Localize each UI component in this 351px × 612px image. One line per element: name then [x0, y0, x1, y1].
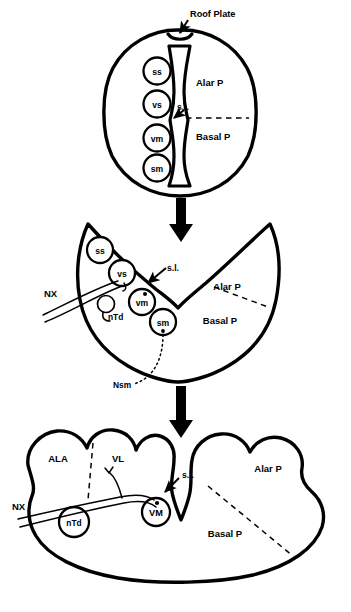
panel-3-ntd-label: nTd: [66, 518, 81, 528]
panel-2-sm-dot: [161, 329, 165, 333]
panel-1-label-ss: ss: [152, 67, 162, 77]
panel-3-vm-dot: [155, 501, 159, 505]
panel-3-ala-label: ALA: [48, 453, 68, 464]
panel-2-group: [43, 224, 279, 384]
panel-1-basal-plate-label: Basal P: [196, 131, 231, 142]
panel-1-label-vs: vs: [152, 100, 162, 110]
panel-1-label-vm: vm: [151, 134, 164, 144]
diagram-svg: Roof Plate Alar P Basal P s.l. ss vs vm …: [0, 0, 351, 612]
panel-3-vagus-label: NX: [12, 501, 26, 512]
arrow-panel1-to-panel2: [169, 198, 193, 242]
panel-2-label-ss: ss: [95, 246, 105, 256]
panel-2-basal-plate-label: Basal P: [203, 315, 238, 326]
panel-2-sl-arrow: [148, 268, 166, 283]
panel-2-label-sm: sm: [157, 318, 170, 328]
panel-3-sulcus-limitans-label: s.l.: [182, 470, 194, 480]
panel-1-sulcus-limitans-label: s.l.: [177, 102, 189, 112]
panel-2-nsm-label: Nsm: [113, 380, 131, 390]
arrow-panel2-to-panel3: [169, 386, 193, 438]
panel-3-label-vm: VM: [149, 508, 163, 518]
panel-1-roof-notch: [168, 34, 192, 39]
panel-3-basal-plate-label: Basal P: [208, 528, 243, 539]
panel-2-vm-dot: [143, 292, 147, 296]
panel-1-roof-plate-label: Roof Plate: [190, 9, 235, 19]
panel-2-sulcus-limitans-label: s.l.: [167, 263, 179, 273]
panel-2-ntd-label: nTd: [108, 312, 123, 322]
panel-3-vl-label: VL: [112, 453, 124, 464]
panel-2-nucleus-ntd: [98, 296, 115, 313]
panel-2-vagus-label: NX: [44, 288, 58, 299]
panel-3-alar-plate-label: Alar P: [254, 463, 282, 474]
figure-canvas: Roof Plate Alar P Basal P s.l. ss vs vm …: [0, 0, 351, 612]
panel-2-alar-plate-label: Alar P: [213, 281, 241, 292]
panel-2-label-vm: vm: [136, 298, 149, 308]
panel-1-label-sm: sm: [151, 164, 164, 174]
panel-2-label-vs: vs: [117, 269, 127, 279]
panel-1-alar-plate-label: Alar P: [196, 77, 224, 88]
